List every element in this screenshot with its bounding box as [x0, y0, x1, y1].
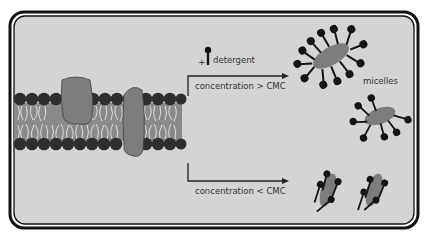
micelles-label: micelles: [363, 76, 398, 86]
membrane-protein-2: [123, 87, 144, 156]
lipid-heads-bottom: [14, 138, 187, 151]
detergent-label: detergent: [213, 55, 255, 65]
below-cmc-label: concentration < CMC: [195, 186, 286, 196]
membrane-protein-1: [61, 77, 92, 124]
above-cmc-label: concentration > CMC: [195, 81, 286, 91]
diagram: + detergent concentration > CMC concentr…: [0, 0, 429, 237]
plus-sign: +: [198, 57, 206, 67]
